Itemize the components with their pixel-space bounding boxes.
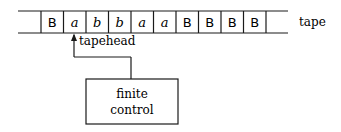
tape-cell-symbol: B [183,15,192,30]
tape-cell-symbol: B [228,15,237,30]
arrowhead-icon [71,34,77,42]
turing-machine-diagram: BabbaaBBBB tape tapehead finite control [0,0,341,132]
tape-cell-symbol: b [116,15,124,30]
tape-cell-symbol: B [48,15,57,30]
tape-cell-symbol: b [93,15,101,30]
finite-control-line1: finite [116,87,148,101]
tape-cell-symbol: a [71,15,79,30]
finite-control-line2: control [110,103,153,117]
tape-cell-symbol: B [250,15,259,30]
tape-cells: BabbaaBBBB [41,11,266,33]
tape-cell-symbol: a [161,15,169,30]
finite-control-box [86,79,178,124]
tapehead-label: tapehead [79,34,136,48]
tape-cell-symbol: a [138,15,146,30]
tape-label: tape [299,15,326,29]
tape-cell-symbol: B [205,15,214,30]
